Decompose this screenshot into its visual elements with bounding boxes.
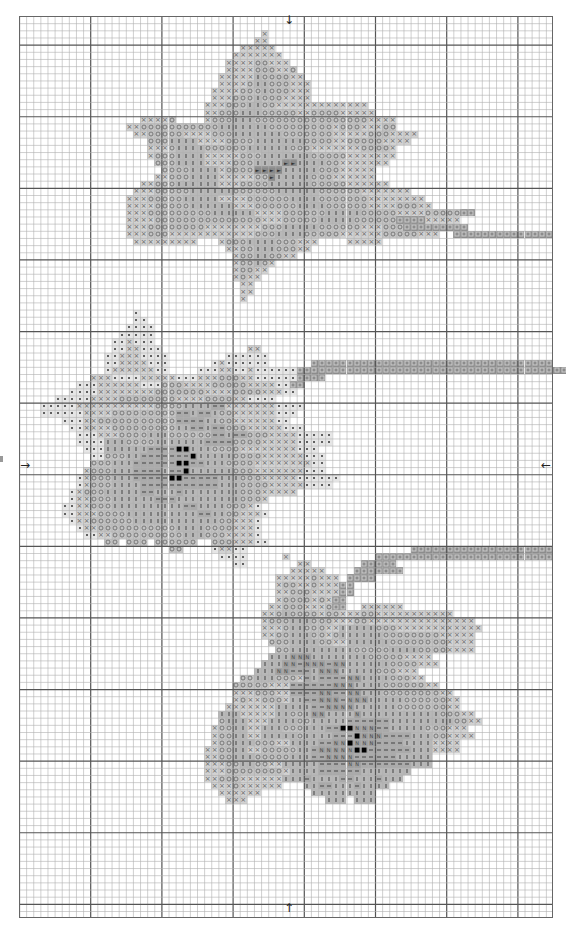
- edge-mark: [0, 456, 3, 462]
- center-arrow-top-icon: ↓: [284, 14, 294, 26]
- stitch-cell: [560, 367, 566, 374]
- stitch-cell: [553, 367, 560, 374]
- cross-stitch-chart: [19, 16, 553, 918]
- center-arrow-left-icon: →: [20, 459, 30, 471]
- chart-grid: [19, 16, 553, 918]
- center-arrow-bottom-icon: ↑: [284, 902, 294, 914]
- center-arrow-right-icon: ←: [541, 459, 551, 471]
